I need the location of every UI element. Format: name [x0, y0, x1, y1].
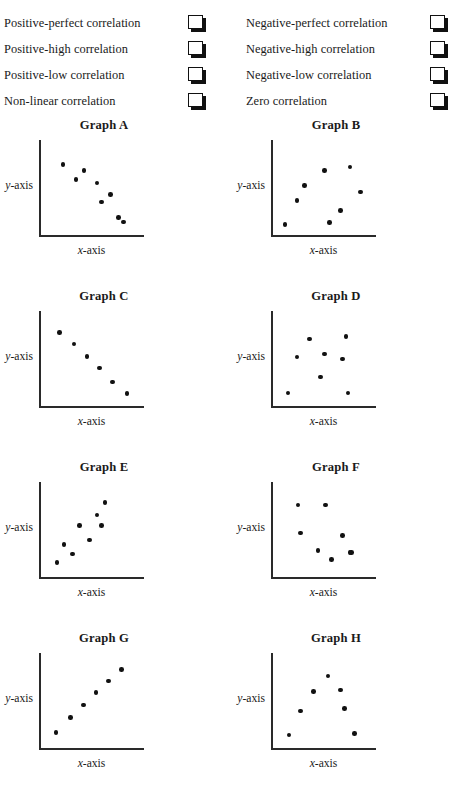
checkbox-box	[188, 15, 203, 29]
data-point	[327, 220, 332, 225]
data-point	[61, 162, 66, 167]
data-point	[322, 168, 327, 173]
legend-item-label: Negative-high correlation	[246, 42, 375, 56]
data-point	[318, 375, 323, 380]
answer-checkbox[interactable]	[188, 15, 206, 32]
checkbox-box	[430, 41, 445, 55]
legend-row[interactable]: Negative-high correlation	[246, 36, 450, 62]
data-point	[338, 208, 343, 213]
legend-item-label: Non-linear correlation	[4, 94, 116, 108]
data-point	[106, 679, 111, 684]
chart-title: Graph A	[14, 118, 194, 133]
data-point	[307, 337, 312, 342]
checkbox-box	[430, 93, 445, 107]
data-point	[340, 533, 345, 538]
plot-area: y-axisx-axis	[271, 311, 376, 408]
data-point	[342, 706, 347, 711]
data-point	[283, 222, 288, 227]
y-axis-line	[39, 482, 41, 579]
data-point	[74, 177, 79, 182]
data-point	[323, 503, 328, 508]
scatter-chart: Graph Ay-axisx-axis	[14, 112, 229, 282]
data-point	[62, 542, 67, 547]
data-point	[348, 165, 353, 170]
x-axis-label: x-axis	[39, 586, 144, 599]
data-point	[97, 366, 102, 371]
data-point	[110, 380, 115, 385]
data-point	[95, 513, 100, 518]
y-axis-line	[39, 140, 41, 237]
answer-checkbox[interactable]	[430, 67, 448, 84]
checkbox-box	[188, 41, 203, 55]
answer-checkbox[interactable]	[188, 67, 206, 84]
checkbox-box	[430, 67, 445, 81]
y-axis-line	[271, 311, 273, 408]
plot-area: y-axisx-axis	[39, 482, 144, 579]
x-axis-label: x-axis	[39, 244, 144, 257]
scatter-chart: Graph Gy-axisx-axis	[14, 625, 229, 795]
data-point	[326, 674, 331, 679]
answer-checkbox[interactable]	[430, 41, 448, 58]
legend-item-label: Positive-high correlation	[4, 42, 128, 56]
data-point	[338, 688, 343, 693]
plot-area: y-axisx-axis	[271, 140, 376, 237]
y-axis-line	[271, 482, 273, 579]
y-axis-line	[39, 311, 41, 408]
checkbox-box	[188, 67, 203, 81]
legend-item-label: Negative-low correlation	[246, 68, 371, 82]
scatter-chart: Graph Dy-axisx-axis	[246, 283, 461, 453]
data-point	[322, 352, 327, 357]
answer-checkbox[interactable]	[188, 93, 206, 110]
data-point	[346, 391, 351, 396]
legend-row[interactable]: Positive-high correlation	[4, 36, 208, 62]
x-axis-line	[271, 577, 376, 579]
x-axis-line	[39, 406, 144, 408]
data-point	[85, 354, 90, 359]
y-axis-label: y-axis	[237, 520, 265, 533]
chart-title: Graph E	[14, 460, 194, 475]
y-axis-label: y-axis	[237, 178, 265, 191]
x-axis-label: x-axis	[271, 586, 376, 599]
legend-row[interactable]: Negative-low correlation	[246, 62, 450, 88]
legend-row[interactable]: Positive-low correlation	[4, 62, 208, 88]
scatter-chart: Graph Hy-axisx-axis	[246, 625, 461, 795]
data-point	[72, 342, 77, 347]
data-point	[68, 715, 73, 720]
data-point	[286, 391, 291, 396]
data-point	[352, 731, 357, 736]
chart-title: Graph B	[246, 118, 426, 133]
y-axis-line	[271, 653, 273, 750]
data-point	[81, 703, 86, 708]
answer-checkbox[interactable]	[430, 93, 448, 110]
chart-title: Graph C	[14, 289, 194, 304]
legend-row[interactable]: Positive-perfect correlation	[4, 10, 208, 36]
data-point	[94, 690, 99, 695]
data-point	[103, 500, 108, 505]
x-axis-label: x-axis	[271, 757, 376, 770]
answer-checkbox[interactable]	[430, 15, 448, 32]
scatter-chart: Graph Ey-axisx-axis	[14, 454, 229, 624]
legend-row[interactable]: Non-linear correlation	[4, 88, 208, 114]
data-point	[316, 548, 321, 553]
answer-checkbox[interactable]	[188, 41, 206, 58]
checkbox-box	[430, 15, 445, 29]
data-point	[298, 709, 303, 714]
data-point	[298, 531, 303, 536]
data-point	[82, 168, 87, 173]
legend-item-label: Positive-perfect correlation	[4, 16, 141, 30]
plot-area: y-axisx-axis	[39, 653, 144, 750]
correlation-answer-legend: Positive-perfect correlation Positive-hi…	[0, 0, 464, 112]
legend-column-right: Negative-perfect correlation Negative-hi…	[246, 10, 450, 114]
x-axis-line	[271, 406, 376, 408]
chart-title: Graph F	[246, 460, 426, 475]
x-axis-line	[39, 577, 144, 579]
data-point	[116, 215, 121, 220]
legend-item-label: Zero correlation	[246, 94, 327, 108]
y-axis-line	[39, 653, 41, 750]
legend-row[interactable]: Negative-perfect correlation	[246, 10, 450, 36]
data-point	[55, 560, 60, 565]
legend-row[interactable]: Zero correlation	[246, 88, 450, 114]
data-point	[108, 192, 113, 197]
chart-title: Graph H	[246, 631, 426, 646]
scatterplot-grid: Graph Ay-axisx-axisGraph By-axisx-axisGr…	[0, 112, 464, 799]
